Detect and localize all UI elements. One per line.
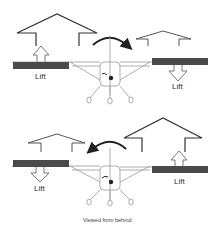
lift-label-left: Lift [35,72,46,81]
aircraft-rear-view [70,36,150,104]
roll-arrow-counterclockwise [91,142,126,150]
small-lift-outline-right [136,31,191,46]
roll-arrow-clockwise [93,38,128,46]
right-aileron [152,58,208,65]
small-lift-outline-left [28,134,85,152]
caption: Viewed from behind [83,217,132,223]
left-aileron [13,62,69,69]
top-panel: Lift Lift [12,14,208,104]
left-aileron-bottom [13,160,69,167]
lift-arrow-up-right [171,151,187,167]
aileron-roll-diagram: Lift Lift [0,0,219,230]
lift-label-right: Lift [172,82,183,91]
lift-arrow-down-right [169,65,187,81]
lift-arrow-up-left [33,46,49,62]
right-aileron-bottom [152,166,208,173]
lift-arrow-down-left [31,167,49,182]
lift-label-left-bottom: Lift [34,184,45,193]
large-lift-outline-left [17,14,97,46]
lift-label-right-bottom: Lift [174,177,185,186]
aircraft-rear-view-bottom [70,148,150,206]
large-lift-outline-right [124,118,202,152]
bottom-panel: Lift Lift [12,118,208,206]
